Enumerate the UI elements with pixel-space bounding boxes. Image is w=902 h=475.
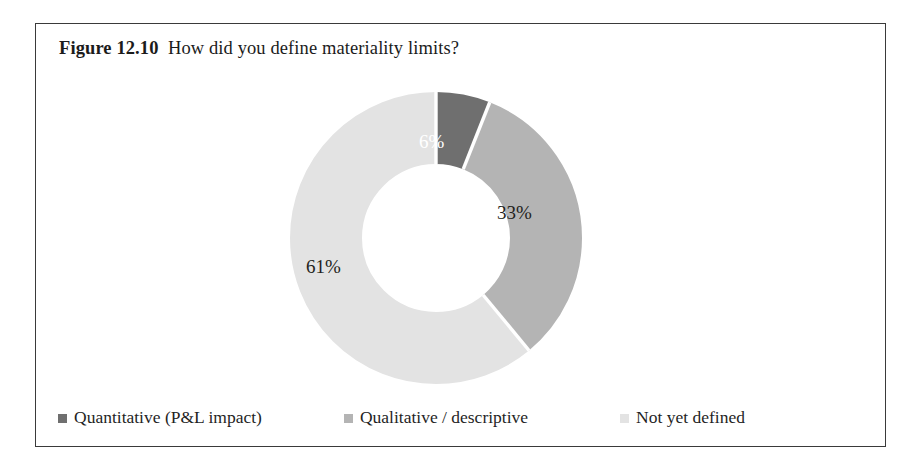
legend-swatch-icon: [58, 414, 67, 423]
chart-legend: Quantitative (P&L impact) Qualitative / …: [58, 404, 866, 432]
figure-title: Figure 12.10 How did you define material…: [59, 38, 459, 59]
legend-label: Quantitative (P&L impact): [74, 409, 262, 427]
figure-number: Figure 12.10: [59, 38, 159, 58]
figure-caption: How did you define materiality limits?: [168, 38, 459, 58]
legend-item-quantitative: Quantitative (P&L impact): [58, 409, 262, 427]
legend-label: Qualitative / descriptive: [360, 409, 528, 427]
legend-item-not-yet-defined: Not yet defined: [620, 409, 745, 427]
figure-container: Figure 12.10 How did you define material…: [0, 0, 902, 475]
legend-swatch-icon: [344, 414, 353, 423]
slice-label-not-yet-defined: 61%: [306, 256, 341, 278]
legend-label: Not yet defined: [636, 409, 745, 427]
legend-item-qualitative: Qualitative / descriptive: [344, 409, 528, 427]
donut-chart: 6% 33% 61%: [286, 88, 586, 388]
legend-swatch-icon: [620, 414, 629, 423]
slice-label-qualitative: 33%: [497, 202, 532, 224]
slice-label-quantitative: 6%: [419, 131, 444, 153]
